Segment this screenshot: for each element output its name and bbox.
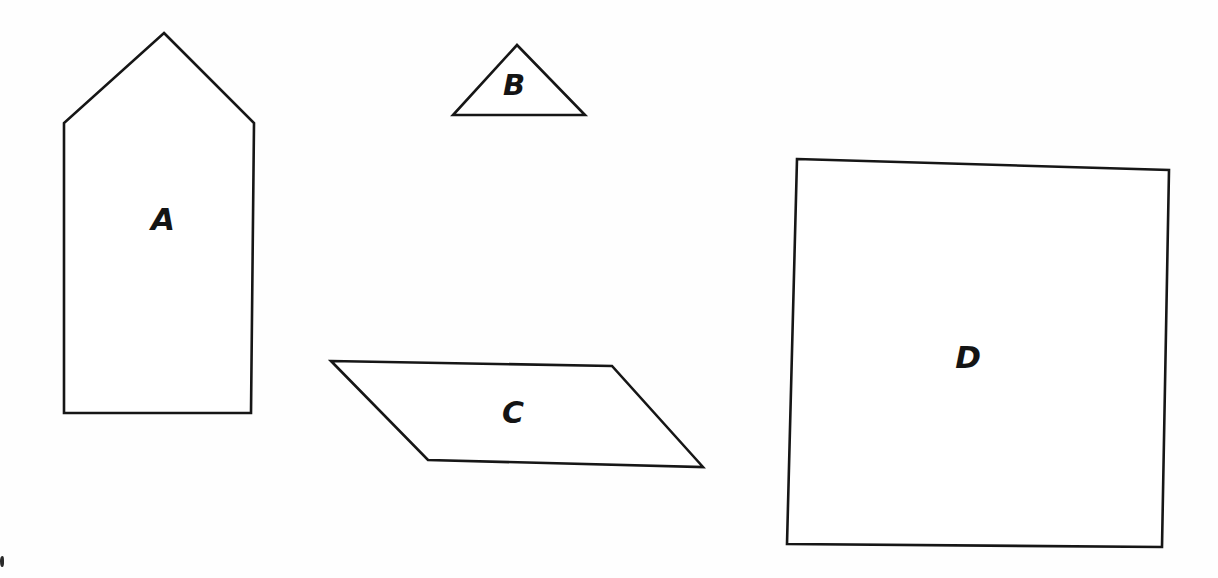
- shape-d-label: D: [955, 339, 981, 375]
- shape-c-label: C: [502, 395, 524, 430]
- shape-b-label: B: [503, 68, 525, 102]
- shape-a-label: A: [148, 201, 175, 237]
- shapes-figure: A B C D: [0, 0, 1218, 578]
- scan-edge-mark: [0, 556, 4, 567]
- worksheet-canvas: A B C D: [0, 0, 1218, 578]
